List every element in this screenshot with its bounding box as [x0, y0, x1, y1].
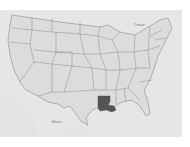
map-container[interactable]: Canada Mexico [0, 10, 182, 137]
label-canada: Canada [134, 23, 145, 27]
us-map [0, 10, 182, 137]
label-mexico: Mexico [52, 120, 62, 124]
